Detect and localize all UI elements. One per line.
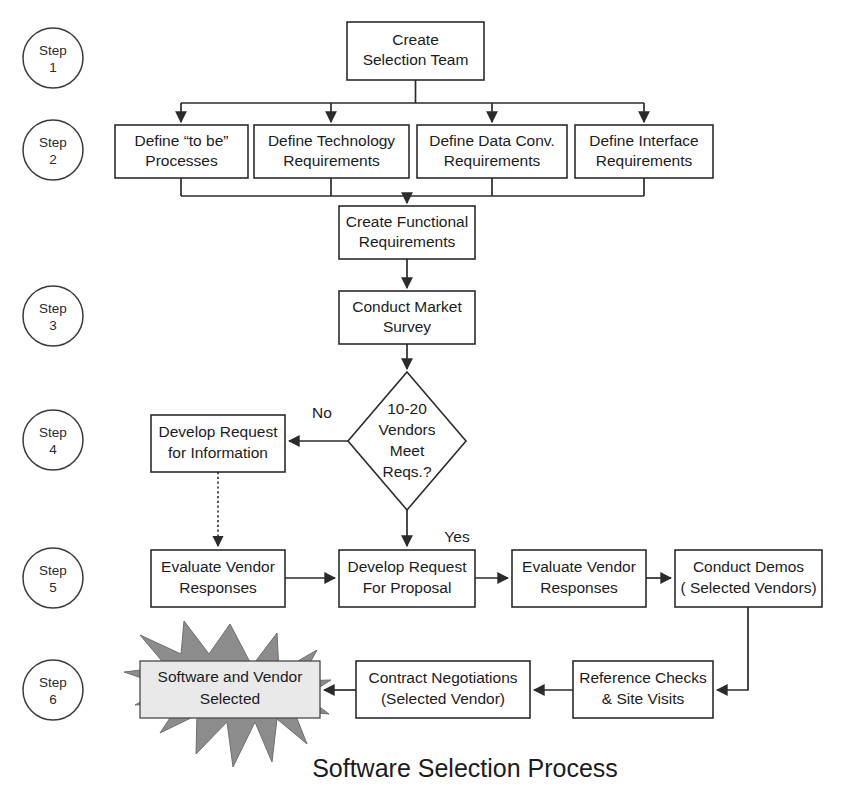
step-label-1-number: 1 (49, 60, 57, 75)
node-evaluate-vendor-responses-1[interactable]: Evaluate Vendor Responses (151, 550, 285, 607)
step-circle-4 (23, 410, 83, 470)
flowchart-page: Step 1 Step 2 Step 3 Step 4 Step 5 (0, 0, 853, 795)
step-label-6-word: Step (39, 675, 67, 690)
node-conduct-demos[interactable]: Conduct Demos ( Selected Vendors) (675, 550, 822, 607)
node-text-develop-rfp-line1: Develop Request (348, 558, 468, 575)
node-define-interface-requirements[interactable]: Define Interface Requirements (575, 125, 713, 178)
step-circle-1 (23, 28, 83, 88)
node-contract-negotiations[interactable]: Contract Negotiations (Selected Vendor) (356, 661, 530, 718)
node-define-to-be-processes[interactable]: Define “to be” Processes (115, 125, 248, 178)
node-text-create-functional-requirements-line2: Requirements (359, 233, 456, 250)
node-text-conduct-market-survey-line1: Conduct Market (352, 298, 462, 315)
step-marker-3: Step 3 (23, 286, 83, 346)
node-text-define-data-conv-requirements-line2: Requirements (444, 152, 541, 169)
step-label-3-word: Step (39, 301, 67, 316)
node-text-define-interface-requirements-line2: Requirements (596, 152, 693, 169)
node-text-evaluate2-line2: Responses (540, 579, 618, 596)
step-circle-5 (23, 548, 83, 608)
node-text-create-selection-team-line2: Selection Team (363, 51, 469, 68)
node-software-and-vendor-selected[interactable]: Software and Vendor Selected (124, 621, 331, 767)
node-text-reference-checks-line1: Reference Checks (579, 669, 707, 686)
step-label-2-number: 2 (49, 152, 57, 167)
connector-demos-to-reference (717, 607, 748, 690)
node-define-data-conv-requirements[interactable]: Define Data Conv. Requirements (417, 125, 567, 178)
step-label-6-number: 6 (49, 692, 57, 707)
node-text-reference-checks-line2: & Site Visits (602, 690, 685, 707)
flowchart-canvas: Step 1 Step 2 Step 3 Step 4 Step 5 (0, 0, 853, 795)
node-text-define-to-be-processes-line2: Processes (145, 152, 218, 169)
node-text-develop-rfi-line2: for Information (168, 444, 268, 461)
step-label-5-word: Step (39, 563, 67, 578)
diagram-title: Software Selection Process (312, 754, 618, 782)
node-text-define-to-be-processes-line1: Define “to be” (135, 132, 229, 149)
node-text-develop-rfi-line1: Develop Request (159, 423, 279, 440)
step-label-4-word: Step (39, 425, 67, 440)
node-text-software-vendor-selected-line2: Selected (200, 690, 260, 707)
edge-label-no: No (312, 404, 332, 421)
node-text-software-vendor-selected-line1: Software and Vendor (158, 668, 303, 685)
node-develop-request-for-proposal[interactable]: Develop Request For Proposal (339, 550, 475, 607)
node-define-technology-requirements[interactable]: Define Technology Requirements (254, 125, 409, 178)
node-conduct-market-survey[interactable]: Conduct Market Survey (339, 291, 475, 344)
node-text-create-functional-requirements-line1: Create Functional (346, 213, 468, 230)
step-label-3-number: 3 (49, 318, 57, 333)
step-label-2-word: Step (39, 135, 67, 150)
step-label-4-number: 4 (49, 442, 57, 457)
step-markers: Step 1 Step 2 Step 3 Step 4 Step 5 (23, 28, 83, 720)
step-circle-6 (23, 660, 83, 720)
node-text-develop-rfp-line2: For Proposal (363, 579, 452, 596)
node-text-decision-line3: Meet (390, 442, 425, 459)
node-diamond-vendors-meet-reqs[interactable] (348, 372, 466, 510)
step-label-1-word: Step (39, 43, 67, 58)
step-marker-4: Step 4 (23, 410, 83, 470)
node-text-decision-line2: Vendors (379, 421, 436, 438)
step-circle-3 (23, 286, 83, 346)
node-text-conduct-demos-line2: ( Selected Vendors) (680, 579, 816, 596)
node-text-define-technology-requirements-line2: Requirements (283, 152, 380, 169)
node-text-contract-negotiations-line2: (Selected Vendor) (381, 690, 505, 707)
node-vendors-meet-reqs-decision[interactable]: 10-20 Vendors Meet Reqs.? (348, 372, 466, 510)
node-text-evaluate1-line2: Responses (179, 579, 257, 596)
node-text-evaluate2-line1: Evaluate Vendor (522, 558, 636, 575)
node-evaluate-vendor-responses-2[interactable]: Evaluate Vendor Responses (512, 550, 646, 607)
step-circle-2 (23, 120, 83, 180)
node-text-conduct-market-survey-line2: Survey (383, 318, 431, 335)
node-create-functional-requirements[interactable]: Create Functional Requirements (339, 206, 475, 259)
node-text-define-data-conv-requirements-line1: Define Data Conv. (429, 132, 555, 149)
node-text-decision-line1: 10-20 (387, 400, 427, 417)
step-marker-1: Step 1 (23, 28, 83, 88)
node-text-decision-line4: Reqs.? (382, 463, 431, 480)
node-reference-checks-site-visits[interactable]: Reference Checks & Site Visits (573, 661, 713, 718)
node-text-define-interface-requirements-line1: Define Interface (589, 132, 698, 149)
node-develop-request-for-information[interactable]: Develop Request for Information (151, 415, 285, 472)
nodes: Create Selection Team Define “to be” Pro… (115, 22, 822, 767)
step-label-5-number: 5 (49, 580, 57, 595)
node-create-selection-team[interactable]: Create Selection Team (347, 22, 484, 80)
node-text-evaluate1-line1: Evaluate Vendor (161, 558, 275, 575)
step-marker-5: Step 5 (23, 548, 83, 608)
edge-label-yes: Yes (444, 528, 470, 545)
step-marker-6: Step 6 (23, 660, 83, 720)
node-text-define-technology-requirements-line1: Define Technology (268, 132, 395, 149)
node-text-create-selection-team-line1: Create (392, 31, 439, 48)
step-marker-2: Step 2 (23, 120, 83, 180)
node-text-contract-negotiations-line1: Contract Negotiations (368, 669, 517, 686)
node-text-conduct-demos-line1: Conduct Demos (693, 558, 804, 575)
